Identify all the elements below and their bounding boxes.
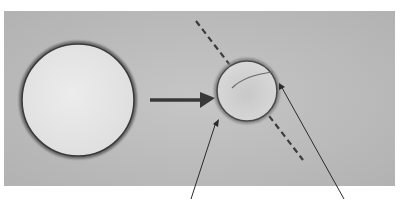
cell-diagram <box>0 0 409 199</box>
large-cell <box>21 43 135 157</box>
small-cell <box>216 60 278 122</box>
